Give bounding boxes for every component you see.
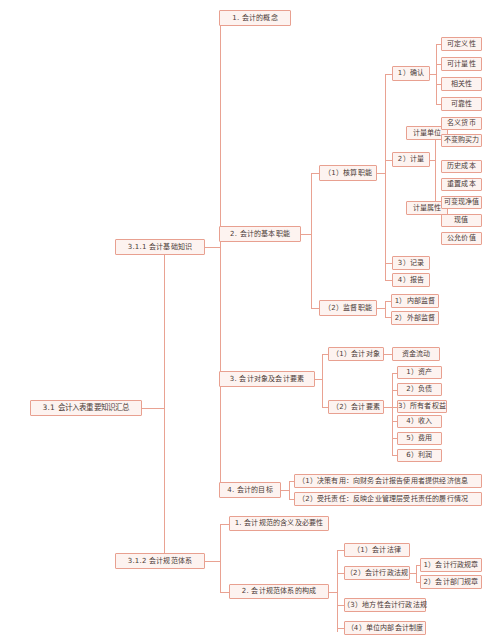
node-revenue[interactable]: 4）收入 xyxy=(397,415,442,428)
connector xyxy=(322,354,323,407)
node-root[interactable]: 3.1 会计入表重要知识汇总 xyxy=(30,400,142,416)
node-objects[interactable]: 3. 会计对象及会计要素 xyxy=(219,371,315,387)
connector xyxy=(337,550,338,632)
connector xyxy=(377,308,385,309)
connector xyxy=(392,373,393,455)
node-definable[interactable]: 可定义性 xyxy=(441,37,482,51)
connector xyxy=(329,592,337,593)
connector xyxy=(289,481,290,499)
node-internal-supervision[interactable]: 1）内部监督 xyxy=(391,294,439,308)
node-nominal-currency[interactable]: 名义货币 xyxy=(441,117,482,130)
node-goal-stewardship[interactable]: （2）受托责任：反映企业管理层受托责任的履行情况 xyxy=(294,492,482,506)
connector xyxy=(435,133,436,208)
node-constant-purchasing-power[interactable]: 不变购买力 xyxy=(441,134,482,147)
connector xyxy=(311,173,312,308)
connector xyxy=(377,173,385,174)
node-accounting-basics[interactable]: 3.1.1 会计基础知识 xyxy=(115,239,205,255)
connector xyxy=(315,379,322,380)
connector xyxy=(385,74,386,280)
connector xyxy=(384,407,392,408)
node-report[interactable]: 4）报告 xyxy=(392,273,430,287)
node-relevance[interactable]: 相关性 xyxy=(441,77,482,91)
node-admin-regulations[interactable]: （2）会计行政法规 xyxy=(344,566,410,580)
node-confirm[interactable]: 1）确认 xyxy=(392,66,430,81)
connector xyxy=(385,301,386,317)
connector xyxy=(164,247,165,561)
node-norm-meaning[interactable]: 1. 会计规范的含义及必要性 xyxy=(229,516,329,531)
node-norm-structure[interactable]: 2. 会计规范体系的构成 xyxy=(229,584,329,599)
node-concept[interactable]: 1. 会计的概念 xyxy=(219,10,291,26)
node-local-regulations[interactable]: （3）地方性会计行政法规 xyxy=(344,598,426,612)
node-owners-equity[interactable]: 3）所有者权益 xyxy=(397,400,447,413)
connector xyxy=(436,44,437,104)
connector xyxy=(301,234,311,235)
node-accounting-elements[interactable]: （2）会计要素 xyxy=(328,400,384,414)
connector xyxy=(220,524,221,592)
node-capital-flow[interactable]: 资金流动 xyxy=(392,347,440,361)
node-goal-decision-usefulness[interactable]: （1）决策有用：向财务会计报告使用者提供经济信息 xyxy=(294,474,482,488)
node-measure[interactable]: 2）计量 xyxy=(392,152,430,167)
node-net-realizable-value[interactable]: 可变现净值 xyxy=(441,196,482,209)
node-asset[interactable]: 1）资产 xyxy=(397,366,442,379)
node-historical-cost[interactable]: 历史成本 xyxy=(441,160,482,173)
node-profit[interactable]: 6）利润 xyxy=(397,449,442,462)
node-admin-rules[interactable]: 1）会计行政规章 xyxy=(420,558,482,572)
mindmap-canvas: 3.1 会计入表重要知识汇总 3.1.1 会计基础知识 3.1.2 会计规范体系… xyxy=(0,0,485,639)
node-functions[interactable]: 2. 会计的基本职能 xyxy=(219,226,301,242)
node-accounting-norms[interactable]: 3.1.2 会计规范体系 xyxy=(115,553,205,569)
node-goals[interactable]: 4. 会计的目标 xyxy=(219,482,281,498)
node-liability[interactable]: 2）负债 xyxy=(397,383,442,396)
connector xyxy=(205,247,220,248)
node-record[interactable]: 3）记录 xyxy=(392,256,430,270)
connector xyxy=(205,561,220,562)
node-replacement-cost[interactable]: 重置成本 xyxy=(441,178,482,191)
node-department-rules[interactable]: 2）会计部门规章 xyxy=(420,575,482,589)
connector xyxy=(416,565,417,582)
connector xyxy=(281,490,289,491)
connector xyxy=(220,18,221,490)
node-expense[interactable]: 5）费用 xyxy=(397,432,442,445)
node-accounting-object[interactable]: （1）会计对象 xyxy=(328,347,384,361)
node-present-value[interactable]: 现值 xyxy=(441,214,482,227)
node-reliability[interactable]: 可靠性 xyxy=(441,97,482,111)
node-accounting-law[interactable]: （1）会计法律 xyxy=(344,543,410,557)
node-accounting-function[interactable]: （1）核算职能 xyxy=(319,165,377,181)
node-fair-value[interactable]: 公允价值 xyxy=(441,232,482,245)
node-supervision-function[interactable]: （2）监督职能 xyxy=(319,300,377,316)
node-measurable[interactable]: 可计量性 xyxy=(441,57,482,71)
connector xyxy=(142,408,164,409)
node-external-supervision[interactable]: 2）外部监督 xyxy=(391,311,439,325)
node-internal-system[interactable]: （4）单位内部会计制度 xyxy=(344,621,426,635)
